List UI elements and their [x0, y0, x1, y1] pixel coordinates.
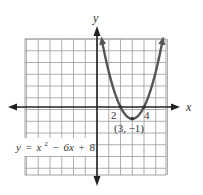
parabola-graph: y x 2 4 (3, −1) y = x 2 − 6x + 8 — [0, 0, 203, 195]
y-axis-up-arrow-icon — [94, 26, 101, 36]
x-axis-label: x — [185, 100, 192, 114]
x-axis-left-arrow-icon — [8, 104, 17, 111]
x-axis-right-arrow-icon — [171, 104, 180, 111]
y-axis-label: y — [92, 11, 99, 25]
intercept-label-2: 2 — [111, 109, 117, 121]
curve-left-arrow-icon — [99, 37, 106, 46]
y-axis-down-arrow-icon — [94, 176, 101, 186]
vertex-label: (3, −1) — [114, 122, 144, 135]
intercept-label-4: 4 — [144, 109, 150, 121]
curve-right-arrow-icon — [158, 37, 165, 46]
vertex-point — [131, 117, 135, 121]
x-intercept-2-point — [119, 105, 123, 109]
